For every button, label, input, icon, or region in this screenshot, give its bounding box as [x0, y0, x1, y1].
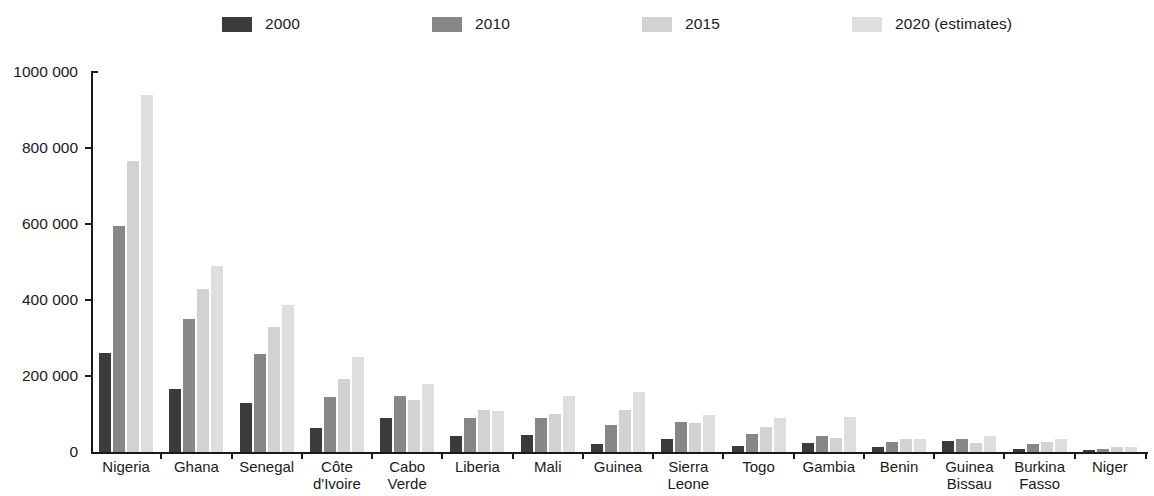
- y-axis-tick-label: 600 000: [0, 216, 78, 232]
- bar: [282, 305, 294, 452]
- x-axis-category-label: Guinea: [583, 458, 653, 475]
- bar-group: [583, 72, 653, 452]
- bar: [956, 439, 968, 452]
- legend-item-1[interactable]: 2010: [432, 14, 510, 34]
- bar: [352, 357, 364, 452]
- legend-label: 2010: [475, 16, 510, 32]
- legend-swatch-icon: [642, 17, 672, 32]
- bar: [689, 423, 701, 452]
- bar-group: [934, 72, 1004, 452]
- bar-group: [161, 72, 231, 452]
- bar: [394, 396, 406, 452]
- x-axis-category-label: Senegal: [232, 458, 302, 475]
- bar: [746, 434, 758, 452]
- bar: [268, 327, 280, 452]
- x-axis-category-label: Sierra Leone: [653, 458, 723, 492]
- bar: [563, 396, 575, 452]
- bar: [661, 439, 673, 452]
- legend-label: 2000: [265, 16, 300, 32]
- bar-group: [372, 72, 442, 452]
- bar: [450, 436, 462, 452]
- bar: [464, 418, 476, 452]
- bar-chart: 2000201020152020 (estimates) 0200 000400…: [0, 0, 1154, 496]
- bar: [310, 428, 322, 452]
- bar-group: [513, 72, 583, 452]
- x-axis-line: [91, 452, 1148, 454]
- bar-group: [1075, 72, 1145, 452]
- x-axis-category-label: Burkina Fasso: [1004, 458, 1074, 492]
- bar: [732, 446, 744, 452]
- bar: [127, 161, 139, 452]
- x-axis-category-label: Nigeria: [91, 458, 161, 475]
- bar: [1097, 449, 1109, 452]
- bar-group: [723, 72, 793, 452]
- y-axis-tick-label: 0: [0, 444, 78, 460]
- x-axis-category-label: Niger: [1075, 458, 1145, 475]
- bar: [703, 415, 715, 452]
- x-axis-category-label: Liberia: [442, 458, 512, 475]
- bar: [970, 443, 982, 453]
- bar: [914, 439, 926, 452]
- legend-item-2[interactable]: 2015: [642, 14, 720, 34]
- bar: [984, 436, 996, 452]
- bar: [886, 442, 898, 452]
- bar: [240, 403, 252, 452]
- bar-group: [442, 72, 512, 452]
- bar: [211, 266, 223, 452]
- legend-swatch-icon: [432, 17, 462, 32]
- x-axis-category-label: Côte d'Ivoire: [302, 458, 372, 492]
- x-axis-category-label: Mali: [513, 458, 583, 475]
- bar: [197, 289, 209, 452]
- bar: [633, 392, 645, 452]
- x-axis-category-label: Guinea Bissau: [934, 458, 1004, 492]
- legend-label: 2015: [685, 16, 720, 32]
- legend-item-0[interactable]: 2000: [222, 14, 300, 34]
- bar: [492, 411, 504, 452]
- bar-group: [1004, 72, 1074, 452]
- bar: [183, 319, 195, 452]
- legend-label: 2020 (estimates): [895, 16, 1012, 32]
- bar: [99, 353, 111, 452]
- bar-group: [232, 72, 302, 452]
- bar: [816, 436, 828, 452]
- bar: [872, 447, 884, 452]
- bar: [422, 384, 434, 452]
- bar: [478, 410, 490, 452]
- x-axis-category-label: Togo: [723, 458, 793, 475]
- bar-group: [653, 72, 723, 452]
- bar: [1055, 439, 1067, 452]
- bar: [141, 95, 153, 452]
- bar: [549, 414, 561, 452]
- bar: [1013, 449, 1025, 452]
- y-axis-tick-label: 200 000: [0, 368, 78, 384]
- bar: [675, 422, 687, 452]
- bar: [774, 418, 786, 452]
- bar: [535, 418, 547, 452]
- bar: [830, 438, 842, 452]
- bar: [338, 379, 350, 452]
- y-axis-tick-label: 1000 000: [0, 64, 78, 80]
- bar: [900, 439, 912, 452]
- x-axis-tick-mark: [1145, 452, 1147, 459]
- bar: [942, 441, 954, 452]
- legend-item-3[interactable]: 2020 (estimates): [852, 14, 1012, 34]
- bar: [380, 418, 392, 452]
- bar-group: [794, 72, 864, 452]
- bar: [113, 226, 125, 452]
- y-axis-tick-label: 800 000: [0, 140, 78, 156]
- bar: [844, 417, 856, 452]
- bar-group: [91, 72, 161, 452]
- bar: [1041, 442, 1053, 452]
- bar: [408, 400, 420, 452]
- x-axis-category-label: Gambia: [794, 458, 864, 475]
- bar-group: [864, 72, 934, 452]
- x-axis-category-label: Ghana: [161, 458, 231, 475]
- bar: [605, 425, 617, 452]
- bar: [1027, 444, 1039, 452]
- x-axis-category-label: Cabo Verde: [372, 458, 442, 492]
- bar: [169, 389, 181, 452]
- bar: [802, 443, 814, 452]
- bar: [254, 354, 266, 452]
- bar: [760, 427, 772, 452]
- chart-legend: 2000201020152020 (estimates): [0, 0, 1154, 50]
